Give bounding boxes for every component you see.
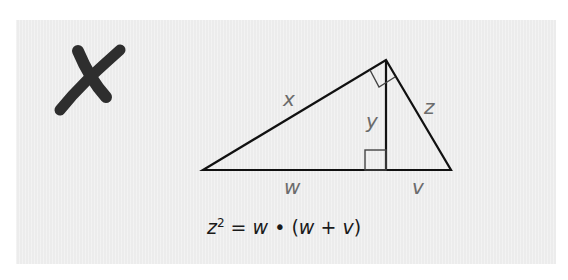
label-x: x (282, 87, 295, 111)
formula-close-paren: ) (354, 216, 361, 238)
label-z: z (423, 95, 435, 119)
triangle (203, 60, 451, 170)
label-w: w (284, 175, 301, 199)
formula-w2: w (299, 216, 315, 238)
formula-plus: + (320, 216, 336, 238)
formula-open-paren: ( (291, 216, 298, 238)
right-angle-foot (365, 150, 386, 170)
right-angle-apex (370, 70, 395, 87)
label-y: y (365, 109, 379, 133)
formula-dot: • (274, 216, 285, 238)
formula: z2 = w • (w + v) (0, 216, 568, 238)
formula-w1: w (253, 216, 269, 238)
formula-z: z (207, 216, 217, 238)
label-v: v (412, 175, 425, 199)
formula-exponent: 2 (217, 216, 225, 230)
formula-equals: = (231, 216, 247, 238)
formula-v: v (342, 216, 353, 238)
x-mark-icon (60, 50, 120, 110)
